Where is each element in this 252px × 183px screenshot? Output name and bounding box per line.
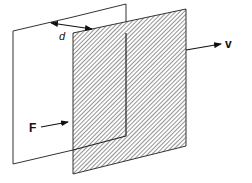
distance-label: d (59, 30, 66, 42)
force-arrow (41, 122, 68, 127)
force-label: F (29, 121, 36, 135)
velocity-arrow (186, 44, 221, 50)
velocity-label: v (225, 37, 232, 51)
moving-plate (73, 9, 186, 174)
plates-diagram: d F v (0, 0, 252, 183)
distance-arrow (51, 23, 92, 29)
